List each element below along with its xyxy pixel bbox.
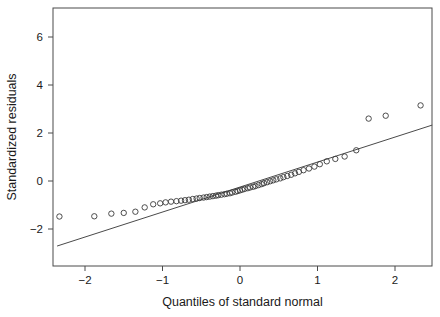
- data-point: [418, 103, 423, 108]
- data-point: [366, 116, 371, 121]
- data-point: [151, 202, 156, 207]
- data-point: [163, 200, 168, 205]
- x-tick-label: 0: [237, 274, 243, 286]
- y-axis-title: Standardized residuals: [5, 73, 19, 200]
- x-tick-label: −1: [156, 274, 169, 286]
- data-point: [168, 199, 173, 204]
- data-point: [383, 113, 388, 118]
- data-point: [342, 154, 347, 159]
- data-point: [333, 156, 338, 161]
- data-point: [142, 205, 147, 210]
- reference-line: [57, 125, 432, 246]
- x-axis-title: Quantiles of standard normal: [162, 295, 323, 309]
- data-point: [133, 209, 138, 214]
- data-point: [92, 214, 97, 219]
- data-point: [274, 177, 279, 182]
- y-tick-label: 6: [37, 31, 43, 43]
- y-tick-label: 2: [37, 127, 43, 139]
- data-point: [306, 166, 311, 171]
- data-point: [317, 162, 322, 167]
- data-point: [109, 211, 114, 216]
- x-tick-label: 1: [314, 274, 320, 286]
- data-point: [312, 164, 317, 169]
- data-point: [157, 201, 162, 206]
- data-point: [278, 176, 283, 181]
- x-tick-label: −2: [78, 274, 91, 286]
- data-point: [57, 214, 62, 219]
- x-tick-label: 2: [392, 274, 398, 286]
- data-point-group: [57, 103, 424, 220]
- y-tick-label: 0: [37, 175, 43, 187]
- data-point: [301, 168, 306, 173]
- y-tick-label: −2: [30, 223, 43, 235]
- qq-plot-figure: −2−1012−20246Quantiles of standard norma…: [0, 0, 440, 317]
- plot-frame: [53, 8, 432, 266]
- data-point: [121, 210, 126, 215]
- y-tick-label: 4: [37, 79, 44, 91]
